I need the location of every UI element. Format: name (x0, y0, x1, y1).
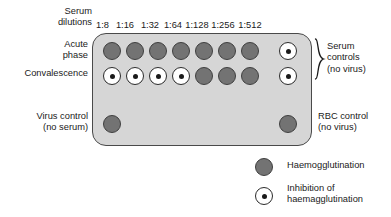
dilution-label-5: 1:128 (183, 20, 211, 31)
serum-dilutions-heading: Serum dilutions (22, 6, 92, 29)
label-serum-controls: Serum controls (no virus) (327, 41, 391, 75)
label-rbc-control: RBC control (no virus) (318, 111, 390, 134)
well-conv-7[interactable] (241, 67, 259, 85)
row-label-acute-phase: Acute phase (22, 39, 88, 62)
well-conv-6[interactable] (218, 67, 236, 85)
dilution-label-3: 1:32 (138, 20, 162, 31)
well-conv-2[interactable] (126, 67, 144, 85)
row-label-virus-control: Virus control (no serum) (8, 111, 88, 134)
well-acute-serum-control[interactable] (279, 42, 297, 60)
dilution-label-7: 1:512 (236, 20, 264, 31)
dilution-label-4: 1:64 (161, 20, 185, 31)
well-conv-4[interactable] (172, 67, 190, 85)
legend-swatch-haemagglutination (255, 158, 273, 176)
well-acute-7[interactable] (241, 42, 259, 60)
legend-label-inhibition: Inhibition of haemagglutination (287, 183, 391, 206)
well-acute-2[interactable] (126, 42, 144, 60)
dilution-label-2: 1:16 (113, 20, 137, 31)
well-acute-6[interactable] (218, 42, 236, 60)
legend: Haemogglutination Inhibition of haemaggl… (255, 158, 391, 213)
row-label-convalescence: Convalescence (4, 68, 88, 79)
legend-label-haemagglutination: Haemogglutination (287, 160, 391, 171)
well-conv-1[interactable] (103, 67, 121, 85)
well-conv-5[interactable] (195, 67, 213, 85)
well-virus-control[interactable] (103, 115, 121, 133)
well-conv-3[interactable] (149, 67, 167, 85)
dilution-label-6: 1:256 (209, 20, 237, 31)
well-rbc-control[interactable] (279, 115, 297, 133)
well-acute-1[interactable] (103, 42, 121, 60)
dilution-label-1: 1:8 (92, 20, 113, 31)
legend-swatch-inhibition (255, 187, 273, 205)
serum-controls-brace-icon (314, 38, 326, 80)
well-conv-serum-control[interactable] (279, 67, 297, 85)
well-acute-4[interactable] (172, 42, 190, 60)
microtitre-plate (92, 33, 312, 146)
well-acute-5[interactable] (195, 42, 213, 60)
well-acute-3[interactable] (149, 42, 167, 60)
